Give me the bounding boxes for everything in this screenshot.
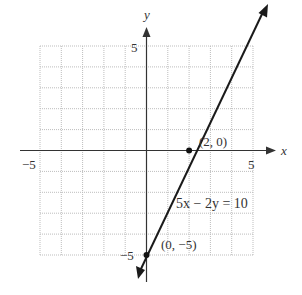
coordinate-plane: y x 5 −5 −5 5 (2, 0) (0, −5) 5x − 2y = 1… [0, 0, 302, 295]
equation-label: 5x − 2y = 10 [176, 196, 248, 211]
x-axis-arrow-icon [266, 147, 276, 155]
point-b-label: (0, −5) [161, 237, 197, 252]
line-arrow-up-icon [259, 4, 269, 18]
y-axis-arrow-icon [143, 27, 151, 37]
x-min-label: −5 [22, 157, 36, 172]
x-max-label: 5 [248, 157, 255, 172]
x-axis-label: x [280, 143, 287, 158]
y-axis-label: y [142, 7, 150, 22]
y-axis [143, 27, 151, 282]
y-min-label: −5 [120, 248, 134, 263]
x-axis [20, 147, 276, 155]
point-a-label: (2, 0) [199, 134, 227, 149]
y-max-label: 5 [131, 40, 138, 55]
point-0-neg5 [144, 252, 150, 258]
point-2-0 [186, 148, 192, 154]
